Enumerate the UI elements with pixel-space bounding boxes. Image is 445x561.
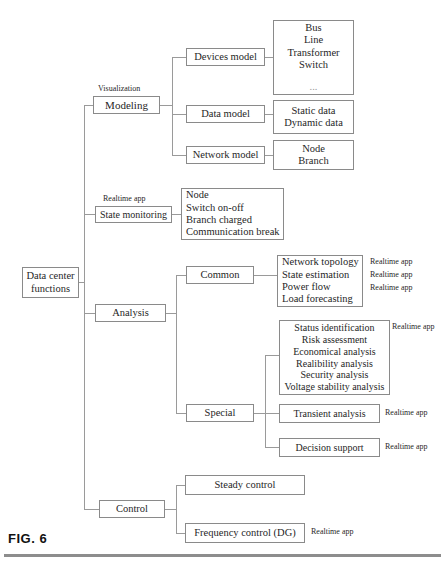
node-steady-control[interactable]: Steady control xyxy=(185,475,305,495)
node-frequency-control[interactable]: Frequency control (DG) xyxy=(185,523,305,543)
item-line: Bus xyxy=(305,22,321,34)
node-common[interactable]: Common xyxy=(186,266,254,284)
node-transient-analysis[interactable]: Transient analysis xyxy=(279,404,380,423)
item-line: Line xyxy=(304,34,323,46)
node-analysis[interactable]: Analysis xyxy=(95,304,166,322)
connector-control-trunk xyxy=(176,485,177,533)
tag-common-realtime-2: Realtime app xyxy=(370,271,412,280)
connector-modeling-to-devices xyxy=(172,57,186,58)
tag-special-items-realtime: Realtime app xyxy=(392,323,434,332)
node-special[interactable]: Special xyxy=(186,404,254,422)
node-label: Steady control xyxy=(215,479,276,491)
connector-main-trunk xyxy=(84,105,85,509)
item-line: Realibility analysis xyxy=(296,358,373,370)
tag-decision-support-realtime: Realtime app xyxy=(385,443,427,452)
node-state-monitoring[interactable]: State monitoring xyxy=(95,206,172,223)
connector-special-to-items xyxy=(265,355,279,356)
item-line: Risk assessment xyxy=(302,334,367,346)
connector-state-monitoring-to-items xyxy=(172,214,181,215)
node-label: Analysis xyxy=(112,307,149,319)
node-label: Network model xyxy=(193,149,259,161)
figure-label: FIG. 6 xyxy=(8,531,47,546)
node-label: Control xyxy=(116,503,148,515)
connector-special-to-decision xyxy=(265,447,279,448)
figure-tree-diagram: Data center functions Visualization Mode… xyxy=(0,0,445,561)
connector-to-analysis xyxy=(84,313,95,314)
tag-transient-analysis-realtime: Realtime app xyxy=(385,409,427,418)
annotation-state-monitoring-realtime: Realtime app xyxy=(103,195,145,204)
item-line: Branch charged xyxy=(182,214,283,226)
node-common-items[interactable]: Network topology State estimation Power … xyxy=(277,255,363,307)
connector-to-modeling xyxy=(84,105,93,106)
item-line: Node xyxy=(182,189,283,201)
item-line: Status identification xyxy=(294,322,374,334)
node-devices-model[interactable]: Devices model xyxy=(186,48,265,66)
connector-modeling-to-network xyxy=(172,155,186,156)
item-line: Branch xyxy=(298,155,328,167)
node-data-model-items[interactable]: Static data Dynamic data xyxy=(273,100,354,134)
node-special-items[interactable]: Status identification Risk assessment Ec… xyxy=(279,320,390,395)
node-label: Frequency control (DG) xyxy=(194,527,295,539)
connector-devices-to-items xyxy=(265,57,273,58)
tag-common-realtime-1: Realtime app xyxy=(370,258,412,267)
item-line: Economical analysis xyxy=(293,346,375,358)
connector-special-trunk xyxy=(265,355,266,447)
node-label: Special xyxy=(205,407,236,419)
annotation-visualization: Visualization xyxy=(98,85,140,94)
item-line-ellipsis: ... xyxy=(310,81,318,93)
connector-data-to-items xyxy=(265,114,273,115)
node-network-model[interactable]: Network model xyxy=(186,146,265,164)
connector-modeling-stub xyxy=(160,105,172,106)
node-line: functions xyxy=(31,283,70,295)
item-line: State estimation xyxy=(278,269,362,281)
connector-control-to-steady xyxy=(176,485,185,486)
item-line: Switch xyxy=(299,59,328,71)
node-label: Decision support xyxy=(295,442,363,454)
item-line: Static data xyxy=(291,105,335,117)
connector-analysis-to-common xyxy=(176,275,186,276)
node-data-center-functions[interactable]: Data center functions xyxy=(22,267,79,298)
connector-analysis-to-special xyxy=(176,413,186,414)
node-label: Transient analysis xyxy=(293,408,365,420)
connector-modeling-to-data xyxy=(172,114,186,115)
node-label: Common xyxy=(200,269,239,281)
node-state-monitoring-items[interactable]: Node Switch on-off Branch charged Commun… xyxy=(181,188,284,240)
connector-modeling-trunk xyxy=(172,57,173,155)
connector-special-stub xyxy=(254,413,265,414)
connector-to-state-monitoring xyxy=(84,214,95,215)
item-line: Security analysis xyxy=(300,369,368,381)
node-line: Data center xyxy=(26,270,74,282)
connector-to-control xyxy=(84,509,99,510)
item-line: Dynamic data xyxy=(284,117,343,129)
node-devices-model-items[interactable]: Bus Line Transformer Switch ... xyxy=(273,20,354,95)
figure-rule-divider xyxy=(4,554,441,557)
item-line: Network topology xyxy=(278,256,362,268)
node-data-model[interactable]: Data model xyxy=(186,105,265,123)
node-label: Data model xyxy=(201,108,250,120)
item-line: Node xyxy=(302,143,325,155)
item-line: Switch on-off xyxy=(182,202,283,214)
item-line: Communication break xyxy=(182,226,283,238)
item-line: Power flow xyxy=(278,281,362,293)
connector-control-stub xyxy=(165,509,176,510)
item-line: Load forecasting xyxy=(278,293,362,305)
node-label: Modeling xyxy=(105,99,148,112)
node-decision-support[interactable]: Decision support xyxy=(279,438,380,457)
item-line: Transformer xyxy=(287,47,339,59)
node-network-model-items[interactable]: Node Branch xyxy=(273,140,354,170)
connector-special-to-transient xyxy=(265,413,279,414)
connector-network-to-items xyxy=(265,155,273,156)
connector-analysis-trunk xyxy=(176,275,177,413)
node-modeling[interactable]: Modeling xyxy=(93,96,160,114)
connector-analysis-stub xyxy=(166,313,176,314)
node-label: Devices model xyxy=(194,51,257,63)
connector-control-to-frequency xyxy=(176,533,185,534)
node-label: State monitoring xyxy=(100,209,167,221)
connector-common-to-items xyxy=(254,275,277,276)
node-control[interactable]: Control xyxy=(99,500,165,518)
tag-frequency-control-realtime: Realtime app xyxy=(311,528,353,537)
item-line: Voltage stability analysis xyxy=(285,381,385,393)
tag-common-realtime-3: Realtime app xyxy=(370,284,412,293)
